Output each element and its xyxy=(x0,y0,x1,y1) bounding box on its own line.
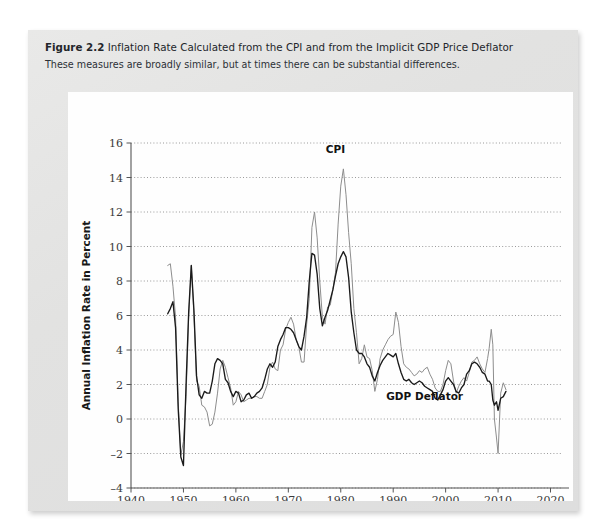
y-tick-label-16: 16 xyxy=(109,137,123,150)
axes-group xyxy=(131,143,569,488)
figure-caption: Figure 2.2 Inflation Rate Calculated fro… xyxy=(45,40,561,72)
series-annotation-gdp-deflator: GDP Deflator xyxy=(386,390,464,402)
series-annotation-cpi: CPI xyxy=(326,143,345,155)
x-tick-label-1990: 1990 xyxy=(379,494,407,501)
figure-subtitle: These measures are broadly similar, but … xyxy=(45,58,561,72)
y-tick-label-6: 6 xyxy=(116,310,123,323)
y-tick-label-8: 8 xyxy=(116,275,123,288)
y-tick-label-12: 12 xyxy=(109,206,123,219)
x-tick-label-1960: 1960 xyxy=(222,494,250,501)
plot-sheet: 194019501960197019801990200020102020 –4–… xyxy=(68,92,573,501)
inflation-line-chart: 194019501960197019801990200020102020 –4–… xyxy=(68,92,573,501)
series-group xyxy=(168,169,506,466)
x-tick-label-1970: 1970 xyxy=(274,494,302,501)
y-tick-labels: –4–20246810121416 xyxy=(109,137,131,495)
x-tick-labels: 194019501960197019801990200020102020 xyxy=(117,488,565,501)
figure-title-text: Inflation Rate Calculated from the CPI a… xyxy=(108,41,513,53)
y-axis-title: Annual Inflation Rate in Percent xyxy=(80,221,92,411)
y-tick-label--2: –2 xyxy=(111,448,124,461)
figure-number: Figure 2.2 xyxy=(45,41,104,53)
y-tick-label-4: 4 xyxy=(116,344,123,357)
figure-title: Figure 2.2 Inflation Rate Calculated fro… xyxy=(45,40,561,54)
y-tick-label-2: 2 xyxy=(116,379,123,392)
y-tick-label-0: 0 xyxy=(116,413,123,426)
x-tick-label-1950: 1950 xyxy=(169,494,197,501)
series-line-gdp-deflator xyxy=(168,252,506,466)
series-annotations: CPIGDP Deflator xyxy=(326,143,464,402)
y-tick-label-10: 10 xyxy=(109,241,123,254)
x-tick-label-2010: 2010 xyxy=(484,494,512,501)
x-tick-label-2000: 2000 xyxy=(432,494,460,501)
page-canvas: Figure 2.2 Inflation Rate Calculated fro… xyxy=(0,0,605,532)
series-line-cpi xyxy=(168,169,506,455)
figure-card: Figure 2.2 Inflation Rate Calculated fro… xyxy=(28,30,578,511)
x-tick-label-2020: 2020 xyxy=(537,494,565,501)
x-tick-label-1940: 1940 xyxy=(117,494,145,501)
y-tick-label--4: –4 xyxy=(111,482,124,495)
x-tick-label-1980: 1980 xyxy=(327,494,355,501)
y-tick-label-14: 14 xyxy=(109,172,123,185)
